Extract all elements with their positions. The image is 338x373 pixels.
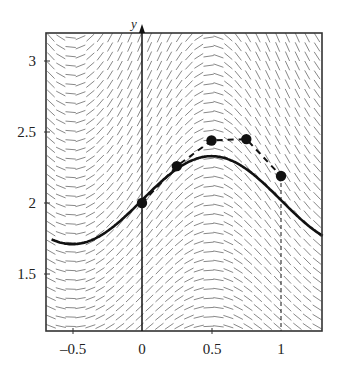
x-tick-neg-0-5: –0.5 bbox=[59, 341, 86, 357]
x-tick-0: 0 bbox=[138, 341, 146, 357]
euler-approximation bbox=[137, 134, 286, 331]
euler-point-marker bbox=[241, 134, 251, 144]
euler-point-marker bbox=[172, 161, 182, 171]
y-tick-2-5: 2.5 bbox=[17, 124, 36, 140]
y-ticks: 3 2.5 2 1.5 bbox=[17, 53, 50, 282]
y-tick-3: 3 bbox=[29, 53, 37, 69]
y-axis-label: y bbox=[129, 16, 137, 31]
euler-point-marker bbox=[206, 135, 216, 145]
x-tick-1: 1 bbox=[277, 341, 285, 357]
x-tick-0-5: 0.5 bbox=[203, 341, 222, 357]
y-tick-1-5: 1.5 bbox=[17, 266, 36, 282]
slope-field bbox=[46, 33, 322, 330]
y-tick-2: 2 bbox=[29, 195, 37, 211]
slope-field-chart: y 3 2.5 2 1.5 –0.5 0 0.5 1 bbox=[0, 0, 338, 373]
x-ticks: –0.5 0 0.5 1 bbox=[59, 328, 285, 357]
euler-point-marker bbox=[276, 171, 286, 181]
y-axis-arrow-icon bbox=[139, 24, 145, 33]
